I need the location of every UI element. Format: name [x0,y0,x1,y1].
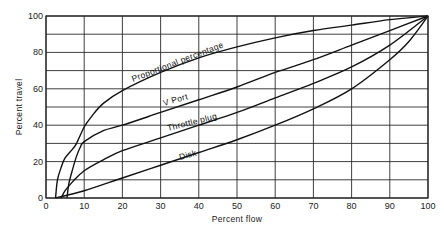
x-tick-label: 10 [79,201,89,211]
x-tick-label: 70 [308,201,318,211]
chart-grid [46,16,428,198]
y-tick-label: 40 [33,120,43,130]
x-tick-label: 90 [385,201,395,211]
x-tick-label: 80 [347,201,357,211]
y-axis-ticks: 020406080100 [28,11,43,203]
x-axis-ticks: 0102030405060708090100 [43,201,435,211]
curve-label-throttle-plug: Throttle plug [166,111,218,133]
y-tick-label: 20 [33,157,43,167]
y-tick-label: 60 [33,84,43,94]
x-tick-label: 30 [156,201,166,211]
curve-label-proportional-percentage: Proportional percentage [130,40,225,84]
y-axis-label: Percent travel [14,79,24,136]
curve-label-v-port: V Port [162,91,190,108]
x-tick-label: 20 [117,201,127,211]
curve-label-disk: Disk [178,148,198,162]
y-tick-label: 100 [28,11,43,21]
x-tick-label: 50 [232,201,242,211]
y-tick-label: 0 [38,193,43,203]
x-axis-label: Percent flow [212,214,263,224]
x-tick-label: 0 [43,201,48,211]
y-tick-label: 80 [33,47,43,57]
percent-travel-vs-flow-chart: 0102030405060708090100 020406080100 Perc… [0,0,444,233]
x-tick-label: 100 [420,201,435,211]
x-tick-label: 60 [270,201,280,211]
x-tick-label: 40 [194,201,204,211]
